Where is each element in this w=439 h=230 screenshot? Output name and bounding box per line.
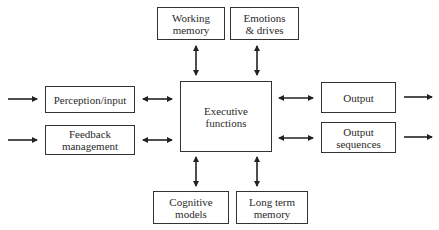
- perception-input-box: Perception/input: [45, 86, 135, 113]
- emotions-drives-box: Emotions& drives: [230, 7, 299, 40]
- working-memory-label-line1: Working: [172, 12, 210, 24]
- executive-label-line2: functions: [204, 117, 248, 129]
- executive-label-line1: Executive: [204, 105, 248, 117]
- working-memory-label-line2: memory: [172, 24, 210, 36]
- cognitive-models-label-line1: Cognitive: [169, 196, 212, 208]
- executive-functions-box: Executivefunctions: [180, 81, 272, 152]
- feedback-label-line2: management: [62, 140, 118, 152]
- feedback-label-line1: Feedback: [62, 128, 118, 140]
- cognitive-models-box: Cognitivemodels: [153, 191, 229, 224]
- cognitive-models-label-line2: models: [169, 208, 212, 220]
- output-sequences-box: Outputsequences: [321, 122, 396, 153]
- long-term-memory-label-line1: Long term: [249, 196, 295, 208]
- long-term-memory-box: Long termmemory: [236, 191, 308, 224]
- working-memory-box: Workingmemory: [157, 7, 225, 40]
- feedback-management-box: Feedbackmanagement: [45, 125, 135, 155]
- long-term-memory-label-line2: memory: [249, 208, 295, 220]
- emotions-drives-label-line2: & drives: [243, 24, 285, 36]
- emotions-drives-label-line1: Emotions: [243, 12, 285, 24]
- output-label: Output: [343, 92, 374, 104]
- perception-input-label: Perception/input: [54, 94, 127, 106]
- output-sequences-label-line2: sequences: [336, 138, 381, 150]
- output-box: Output: [321, 82, 396, 113]
- output-sequences-label-line1: Output: [336, 126, 381, 138]
